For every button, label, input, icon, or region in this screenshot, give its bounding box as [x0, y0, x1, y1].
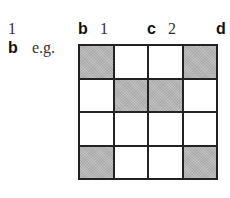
grid-cell: [148, 45, 183, 79]
option-d-label: d: [216, 21, 226, 37]
grid-cell: [79, 112, 114, 146]
grid-cell: [148, 146, 183, 180]
option-b-value: 1: [100, 21, 108, 37]
grid-cell-shaded: [79, 45, 114, 79]
item-number: 1: [8, 21, 16, 37]
grid-cell-shaded: [148, 79, 183, 113]
grid-cell: [79, 79, 114, 113]
grid-cell: [183, 112, 218, 146]
grid-cell: [114, 146, 149, 180]
grid-cell: [183, 79, 218, 113]
example-b-label: b: [8, 40, 18, 56]
grid-cell: [148, 112, 183, 146]
shaded-grid: [78, 44, 218, 180]
option-c-value: 2: [168, 21, 176, 37]
grid-cell: [114, 45, 149, 79]
option-c-label: c: [147, 21, 156, 37]
option-b-label: b: [78, 21, 88, 37]
grid-cell-shaded: [183, 146, 218, 180]
grid-cell-shaded: [79, 146, 114, 180]
grid-cell: [114, 112, 149, 146]
example-text: e.g.: [32, 40, 55, 56]
grid-cell-shaded: [183, 45, 218, 79]
grid-cell-shaded: [114, 79, 149, 113]
